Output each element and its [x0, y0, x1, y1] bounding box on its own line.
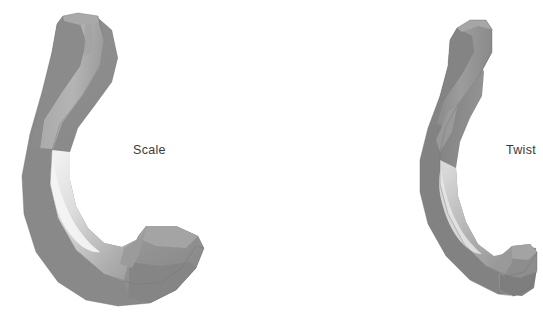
label-scale: Scale [133, 144, 166, 157]
scale-hook-shaft-crease [84, 24, 92, 56]
label-twist: Twist [506, 144, 536, 157]
model-comparison-figure [0, 0, 543, 331]
